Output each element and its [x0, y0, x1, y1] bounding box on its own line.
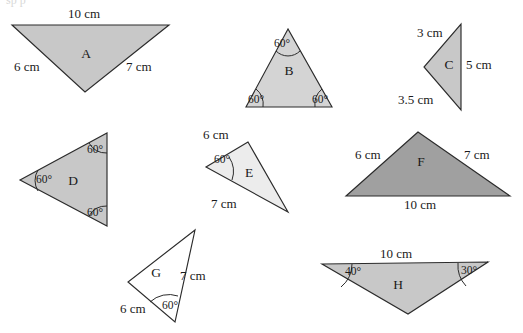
- side-label-c-3: 3.5 cm: [398, 92, 433, 107]
- angle-label-d-2: 60°: [36, 173, 53, 185]
- angle-label-d-3: 60°: [87, 206, 104, 218]
- triangle-b: B60°60°60°: [246, 29, 332, 107]
- angle-label-h-1: 40°: [345, 265, 362, 277]
- side-label-f-1: 6 cm: [355, 147, 381, 162]
- side-label-e-1: 6 cm: [203, 127, 229, 142]
- triangle-g: G6 cm7 cm60°: [120, 230, 206, 322]
- triangles-svg: A10 cm6 cm7 cmB60°60°60°C3 cm5 cm3.5 cmD…: [0, 0, 523, 333]
- triangle-letter-e: E: [245, 165, 253, 180]
- side-label-c-1: 3 cm: [417, 25, 443, 40]
- angle-label-d-1: 60°: [87, 143, 104, 155]
- triangle-letter-h: H: [393, 277, 403, 292]
- angle-label-h-2: 30°: [461, 264, 478, 276]
- triangle-c: C3 cm5 cm3.5 cm: [398, 24, 492, 110]
- angle-label-g-1: 60°: [162, 299, 179, 311]
- triangle-letter-a: A: [81, 46, 91, 61]
- side-label-a-1: 10 cm: [68, 6, 100, 21]
- triangle-letter-d: D: [68, 173, 78, 188]
- triangle-shape-f: [346, 132, 510, 196]
- triangle-letter-b: B: [284, 63, 293, 78]
- triangle-d: D60°60°60°: [20, 133, 107, 226]
- triangle-letter-c: C: [444, 57, 453, 72]
- side-label-g-1: 6 cm: [120, 301, 146, 316]
- triangles-figure-canvas: sp p A10 cm6 cm7 cmB60°60°60°C3 cm5 cm3.…: [0, 0, 523, 333]
- side-label-e-2: 7 cm: [211, 196, 237, 211]
- side-label-c-2: 5 cm: [466, 57, 492, 72]
- triangle-h: H10 cm40°30°: [322, 246, 488, 314]
- side-label-g-2: 7 cm: [180, 268, 206, 283]
- triangle-letter-f: F: [417, 154, 425, 169]
- triangle-a: A10 cm6 cm7 cm: [12, 6, 169, 92]
- side-label-a-2: 6 cm: [14, 59, 40, 74]
- angle-label-e-1: 60°: [214, 153, 231, 165]
- triangle-letter-g: G: [151, 265, 161, 280]
- angle-label-b-3: 60°: [312, 93, 329, 105]
- triangles-layer: A10 cm6 cm7 cmB60°60°60°C3 cm5 cm3.5 cmD…: [12, 6, 510, 322]
- triangle-f: F6 cm7 cm10 cm: [346, 132, 510, 212]
- side-label-f-3: 10 cm: [404, 197, 436, 212]
- side-label-a-3: 7 cm: [126, 59, 152, 74]
- side-label-f-2: 7 cm: [464, 147, 490, 162]
- side-label-h-1: 10 cm: [380, 246, 412, 261]
- angle-label-b-1: 60°: [274, 37, 291, 49]
- triangle-e: E6 cm7 cm60°: [203, 127, 288, 212]
- angle-label-b-2: 60°: [248, 93, 265, 105]
